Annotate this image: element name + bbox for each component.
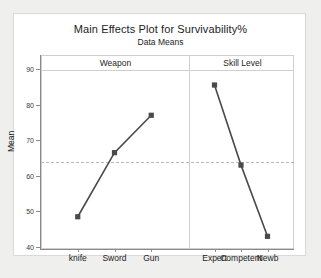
data-point-expert [212, 82, 217, 87]
series-line-weapon [78, 115, 152, 216]
data-point-gun [149, 113, 154, 118]
data-point-competent [238, 163, 243, 168]
page-background: Main Effects Plot for Survivability% Dat… [0, 0, 321, 278]
series-layer [14, 14, 307, 257]
data-point-knife [75, 214, 80, 219]
data-point-sword [112, 150, 117, 155]
chart-card: Main Effects Plot for Survivability% Dat… [13, 13, 306, 256]
series-line-skill-level [215, 85, 268, 236]
data-point-newb [265, 234, 270, 239]
